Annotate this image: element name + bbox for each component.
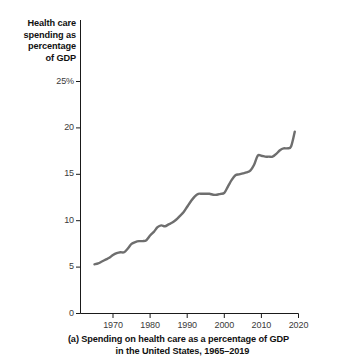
y-axis-tick-label: 0: [40, 308, 74, 318]
y-axis-tick-label: 10: [40, 215, 74, 225]
x-axis-tick-label: 2010: [241, 320, 281, 330]
y-axis-title-line-4: of GDP: [45, 53, 76, 63]
chart-axes: [81, 20, 299, 314]
y-axis-ticks: [76, 82, 81, 314]
y-axis-title: Health care spending as percentage of GD…: [14, 18, 76, 64]
y-axis-title-line-3: percentage: [28, 41, 76, 51]
x-axis-tick-label: 1970: [93, 320, 133, 330]
y-axis-title-line-2: spending as: [23, 30, 76, 40]
caption-line-1: (a) Spending on health care as a percent…: [68, 334, 289, 344]
x-axis-tick-label: 1980: [130, 320, 170, 330]
x-axis-tick-label: 2020: [279, 320, 319, 330]
y-axis-title-line-1: Health care: [28, 18, 76, 28]
caption-line-2: in the United States, 1965–2019: [0, 346, 357, 358]
figure-caption: (a) Spending on health care as a percent…: [0, 334, 357, 358]
data-series-line: [94, 132, 294, 265]
x-axis-ticks: [113, 314, 299, 319]
y-axis-tick-label: 5: [40, 261, 74, 271]
x-axis-tick-label: 1990: [167, 320, 207, 330]
y-axis-tick-label: 25%: [40, 76, 74, 86]
x-axis-tick-label: 2000: [204, 320, 244, 330]
chart-figure: Health care spending as percentage of GD…: [0, 0, 357, 361]
y-axis-tick-label: 15: [40, 168, 74, 178]
y-axis-tick-label: 20: [40, 122, 74, 132]
